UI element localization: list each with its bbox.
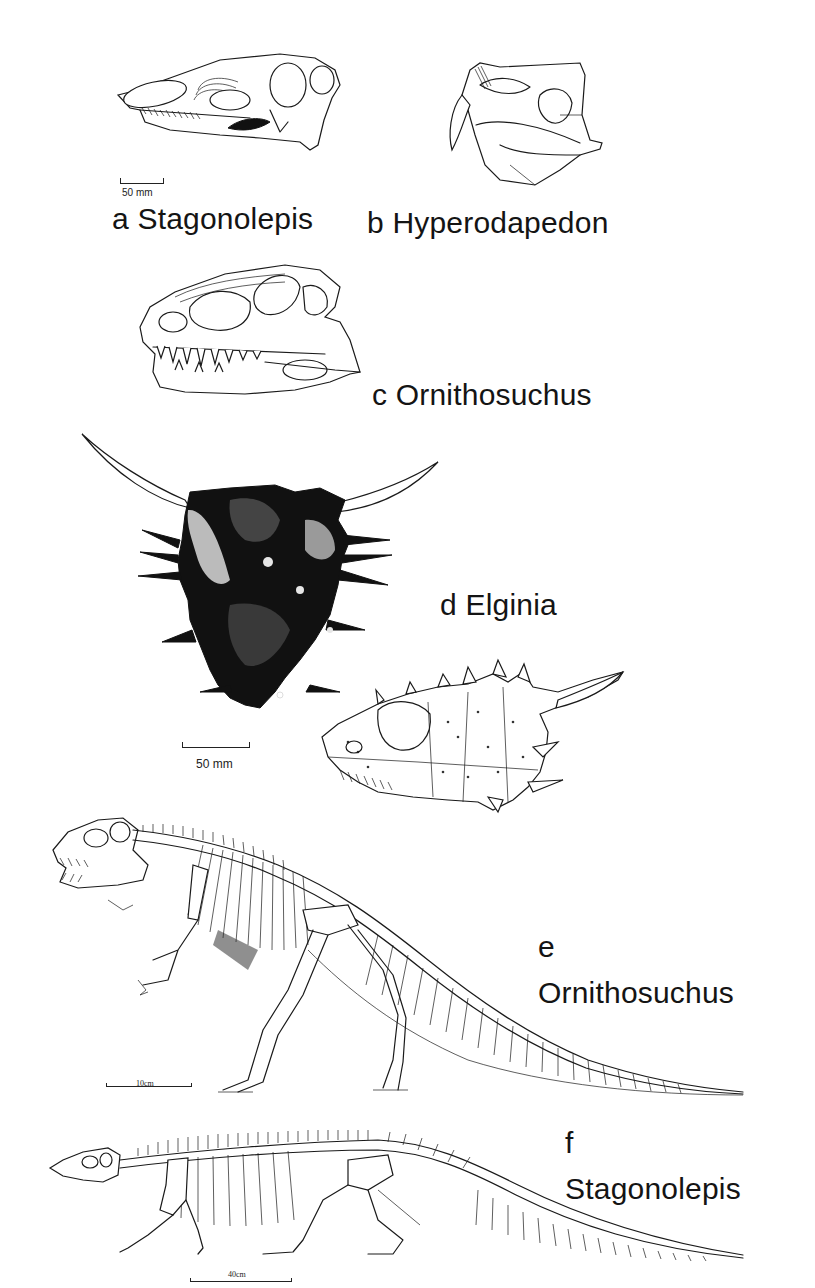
panel-e-letter: e: [538, 932, 555, 962]
panel-f-letter: f: [565, 1128, 574, 1158]
scale-bar-ab-label: 50 mm: [122, 187, 153, 198]
ornithosuchus-skull-drawing: [135, 262, 365, 402]
panel-e-name: Ornithosuchus: [538, 978, 734, 1008]
elginia-skull-lateral-drawing: [318, 652, 628, 817]
stagonolepis-skull-drawing: [110, 50, 370, 150]
scale-bar-d: [182, 742, 250, 748]
panel-f-name: Stagonolepis: [565, 1174, 741, 1204]
panel-c-label: c Ornithosuchus: [372, 380, 592, 410]
panel-d-label: d Elginia: [440, 590, 557, 620]
scale-bar-f: [190, 1278, 292, 1282]
ornithosuchus-skeleton-drawing: [48, 810, 748, 1100]
scale-bar-d-label: 50 mm: [196, 757, 233, 771]
panel-a-label: a Stagonolepis: [112, 204, 313, 234]
panel-b-label: b Hyperodapedon: [367, 208, 609, 238]
scale-bar-ab: [120, 178, 164, 184]
scale-bar-e: [106, 1083, 192, 1087]
hyperodapedon-skull-drawing: [440, 55, 610, 190]
